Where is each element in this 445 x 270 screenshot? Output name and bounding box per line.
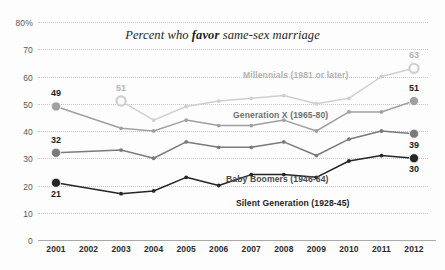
data-point-0-5 xyxy=(217,99,221,103)
y-axis-tick-50: 50 xyxy=(23,100,33,110)
data-point-2-0 xyxy=(51,148,60,157)
x-axis-tick-2002: 2002 xyxy=(79,244,98,254)
data-point-2-11 xyxy=(409,129,418,138)
data-point-3-2 xyxy=(119,192,123,196)
data-point-1-2 xyxy=(119,126,123,130)
data-point-0-6 xyxy=(249,96,253,100)
data-point-0-7 xyxy=(282,94,286,98)
endpoint-value-3: 51 xyxy=(116,83,126,93)
data-point-0-9 xyxy=(347,96,351,100)
data-point-2-5 xyxy=(217,145,221,149)
data-point-1-3 xyxy=(152,129,156,133)
y-axis-tick-10: 10 xyxy=(23,209,33,219)
x-axis-tick-2005: 2005 xyxy=(177,244,196,254)
x-axis-tick-2004: 2004 xyxy=(144,244,163,254)
data-point-0-8 xyxy=(314,102,318,106)
data-point-2-10 xyxy=(380,129,384,133)
data-point-1-6 xyxy=(249,124,253,128)
data-point-3-0 xyxy=(51,178,60,187)
y-axis-tick-80: 80% xyxy=(15,18,33,28)
data-point-2-9 xyxy=(347,137,351,141)
data-point-2-7 xyxy=(282,140,286,144)
data-point-0-4 xyxy=(184,105,188,109)
data-point-1-11 xyxy=(409,96,418,105)
endpoint-value-5: 51 xyxy=(409,83,419,93)
endpoint-value-1: 32 xyxy=(51,135,61,145)
data-point-2-8 xyxy=(314,154,318,158)
x-axis-tick-2010: 2010 xyxy=(339,244,358,254)
data-point-3-4 xyxy=(184,175,188,179)
y-axis-tick-70: 70 xyxy=(23,45,33,55)
data-point-3-5 xyxy=(217,184,221,188)
series-line-2 xyxy=(56,131,414,158)
series-lines xyxy=(38,22,428,240)
y-axis-tick-60: 60 xyxy=(23,73,33,83)
data-point-3-3 xyxy=(152,189,156,193)
data-point-2-6 xyxy=(249,145,253,149)
data-point-1-10 xyxy=(380,110,384,114)
data-point-3-11 xyxy=(409,154,418,163)
x-axis-tick-2012: 2012 xyxy=(404,244,423,254)
series-label-1: Generation X (1965-80) xyxy=(233,110,328,120)
series-label-0: Millennials (1981 or later) xyxy=(243,70,348,80)
data-point-1-8 xyxy=(314,129,318,133)
x-axis-tick-2003: 2003 xyxy=(111,244,130,254)
data-point-1-5 xyxy=(217,124,221,128)
x-axis-labels: 2001200220032004200520062007200820092010… xyxy=(38,244,428,260)
endpoint-value-0: 49 xyxy=(51,88,61,98)
chart-container: Percent who favor same-sex marriage 0102… xyxy=(0,0,445,270)
endpoint-value-4: 63 xyxy=(409,50,419,60)
data-point-0-10 xyxy=(380,75,384,79)
x-axis-tick-2007: 2007 xyxy=(242,244,261,254)
data-point-2-4 xyxy=(184,140,188,144)
x-axis-tick-2008: 2008 xyxy=(274,244,293,254)
data-point-0-3 xyxy=(152,118,156,122)
x-axis-tick-2009: 2009 xyxy=(307,244,326,254)
data-point-0-2 xyxy=(116,96,125,105)
x-axis-tick-2001: 2001 xyxy=(46,244,65,254)
series-label-3: Silent Generation (1928-45) xyxy=(236,198,350,208)
series-label-2: Baby Boomers (1946-64) xyxy=(226,174,329,184)
x-axis-tick-2006: 2006 xyxy=(209,244,228,254)
data-point-3-10 xyxy=(380,154,384,158)
data-point-0-11 xyxy=(409,64,418,73)
data-point-1-0 xyxy=(51,102,60,111)
data-point-3-9 xyxy=(347,159,351,163)
x-axis-tick-2011: 2011 xyxy=(372,244,391,254)
endpoint-value-2: 21 xyxy=(51,189,61,199)
y-axis-tick-40: 40 xyxy=(23,127,33,137)
data-point-2-2 xyxy=(119,148,123,152)
endpoint-value-7: 30 xyxy=(409,164,419,174)
data-point-2-3 xyxy=(152,156,156,160)
data-point-1-9 xyxy=(347,110,351,114)
plot-area: 01020304050607080% Millennials (1981 or … xyxy=(38,22,428,240)
data-point-1-4 xyxy=(184,118,188,122)
y-axis-tick-20: 20 xyxy=(23,182,33,192)
y-axis-tick-30: 30 xyxy=(23,154,33,164)
y-axis-tick-0: 0 xyxy=(28,236,33,246)
endpoint-value-6: 39 xyxy=(409,140,419,150)
x-axis-line xyxy=(38,240,436,241)
